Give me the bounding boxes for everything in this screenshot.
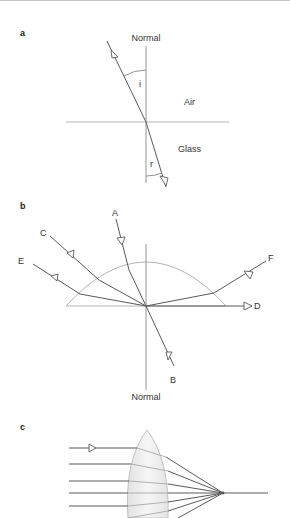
arrow-icon [111,50,118,58]
ray-label-d: D [254,301,261,311]
normal-label-b: Normal [131,392,160,402]
ray-label-a: A [112,208,118,218]
arrow-icon [244,271,253,279]
convex-lens [127,430,168,518]
arrow-icon [117,237,125,245]
arrow-icon [244,302,252,310]
panel-label-b: b [20,201,26,211]
ray-f-inside [146,293,214,306]
arrow-icon [89,444,96,452]
incident-rays [69,448,137,506]
ray-label-f: F [268,253,274,263]
arrow-icon [67,250,74,258]
ray-f [214,261,266,293]
angle-label-r: r [150,159,153,169]
angle-label-i: i [139,79,141,89]
ray-label-c: C [40,228,47,238]
angle-arc-i [124,70,146,76]
panel-b: b Normal A B C E D F [18,201,274,402]
arrow-icon [51,274,58,281]
refraction-diagram: a Normal i r Air Glass b Normal A [0,0,290,518]
medium-label-air: Air [184,97,195,107]
focal-point [222,492,225,495]
ray-label-e: E [18,256,24,266]
ray-label-b: B [170,375,176,385]
medium-label-glass: Glass [178,144,202,154]
panel-a: a Normal i r Air Glass [20,28,229,187]
ray-c [50,236,99,280]
normal-label-a: Normal [131,33,160,43]
panel-c: c [20,422,268,518]
panel-label-a: a [20,28,26,38]
converging-rays [166,457,223,518]
panel-label-c: c [20,422,25,432]
arrow-icon [160,176,168,186]
